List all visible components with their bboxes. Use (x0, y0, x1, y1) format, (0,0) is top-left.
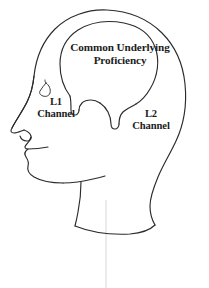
l1-channel-label-line2: Channel (25, 108, 87, 120)
upper-lip (25, 137, 48, 149)
cup-label-line2: Proficiency (62, 54, 178, 67)
collar-line (75, 225, 155, 234)
eye-icon (40, 83, 51, 96)
l2-channel-prong (100, 103, 119, 129)
l2-channel-label: L2 Channel (120, 108, 182, 132)
cup-label: Common Underlying Proficiency (62, 41, 178, 66)
cup-label-line1: Common Underlying (70, 41, 169, 53)
jaw-line (63, 176, 105, 183)
cup-model-diagram: Common Underlying Proficiency L1 Channel… (0, 0, 209, 288)
l2-channel-label-line2: Channel (120, 120, 182, 132)
l1-channel-label: L1 Channel (25, 96, 87, 120)
neck-front-edge (75, 182, 81, 226)
eye-brow-tick (45, 80, 46, 83)
l2-channel-label-line1: L2 (145, 108, 157, 119)
lower-lip-and-chin (25, 149, 63, 183)
l1-channel-label-line1: L1 (50, 96, 62, 107)
